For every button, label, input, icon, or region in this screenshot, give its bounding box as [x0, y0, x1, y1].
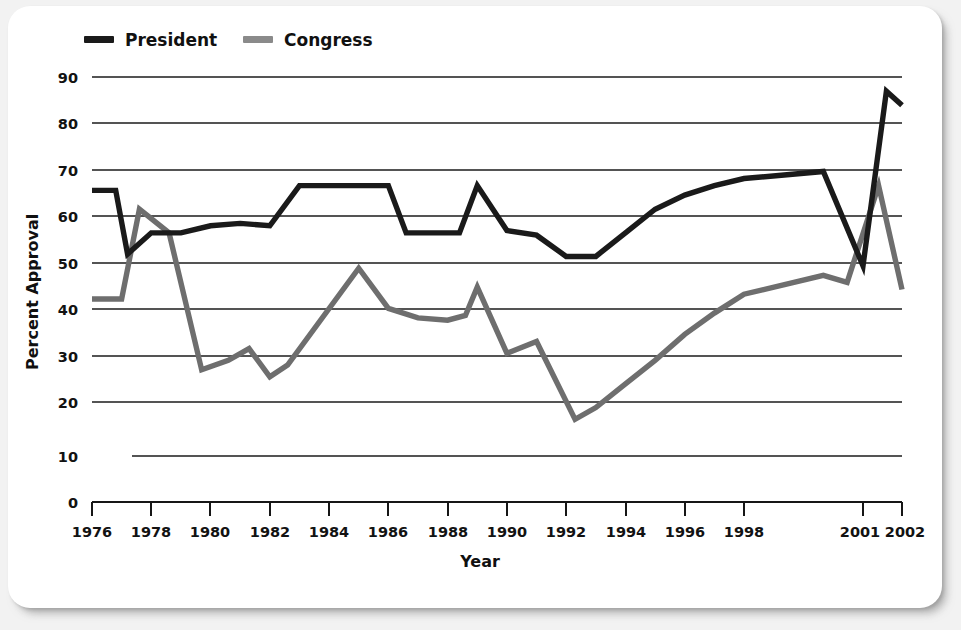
- y-tick-70: 70: [58, 163, 78, 179]
- legend-item-congress: Congress: [243, 30, 373, 50]
- y-axis-tick-labels: 90 80 70 60 50 40 30 20 10 0: [58, 70, 78, 511]
- x-tick-1986: 1986: [368, 524, 408, 540]
- x-axis-title: Year: [459, 552, 500, 571]
- x-tick-1988: 1988: [428, 524, 468, 540]
- legend-swatch-congress-icon: [243, 36, 273, 43]
- y-tick-0: 0: [68, 495, 78, 511]
- x-tick-1998: 1998: [724, 524, 764, 540]
- y-axis-title: Percent Approval: [23, 214, 42, 370]
- chart-legend: President Congress: [84, 30, 373, 50]
- legend-label-congress: Congress: [284, 30, 373, 50]
- x-tick-1984: 1984: [309, 524, 349, 540]
- x-axis-tickmarks: [92, 502, 902, 516]
- x-tick-1992: 1992: [546, 524, 586, 540]
- x-axis-tick-labels: 1976 1978 1980 1982 1984 1986 1988 1990 …: [72, 524, 925, 540]
- y-tick-50: 50: [58, 256, 78, 272]
- series-line-congress: [92, 186, 902, 420]
- x-tick-1994: 1994: [606, 524, 646, 540]
- y-tick-60: 60: [58, 209, 78, 225]
- x-tick-2002: 2002: [885, 524, 925, 540]
- y-tick-10: 10: [58, 449, 78, 465]
- y-tick-20: 20: [58, 395, 78, 411]
- x-tick-1996: 1996: [665, 524, 705, 540]
- legend-label-president: President: [125, 30, 217, 50]
- x-tick-1978: 1978: [131, 524, 171, 540]
- x-tick-2001: 2001: [840, 524, 880, 540]
- x-tick-1982: 1982: [250, 524, 290, 540]
- x-tick-1980: 1980: [190, 524, 230, 540]
- y-tick-30: 30: [58, 349, 78, 365]
- gridlines: [92, 77, 902, 456]
- y-tick-80: 80: [58, 116, 78, 132]
- chart-figure: President Congress: [0, 0, 961, 630]
- x-tick-1990: 1990: [487, 524, 527, 540]
- chart-svg: President Congress: [0, 0, 961, 630]
- y-tick-40: 40: [58, 302, 78, 318]
- x-tick-1976: 1976: [72, 524, 112, 540]
- legend-swatch-president-icon: [84, 36, 114, 43]
- page-root: President Congress: [0, 0, 961, 630]
- y-tick-90: 90: [58, 70, 78, 86]
- legend-item-president: President: [84, 30, 217, 50]
- series-line-president: [92, 91, 902, 266]
